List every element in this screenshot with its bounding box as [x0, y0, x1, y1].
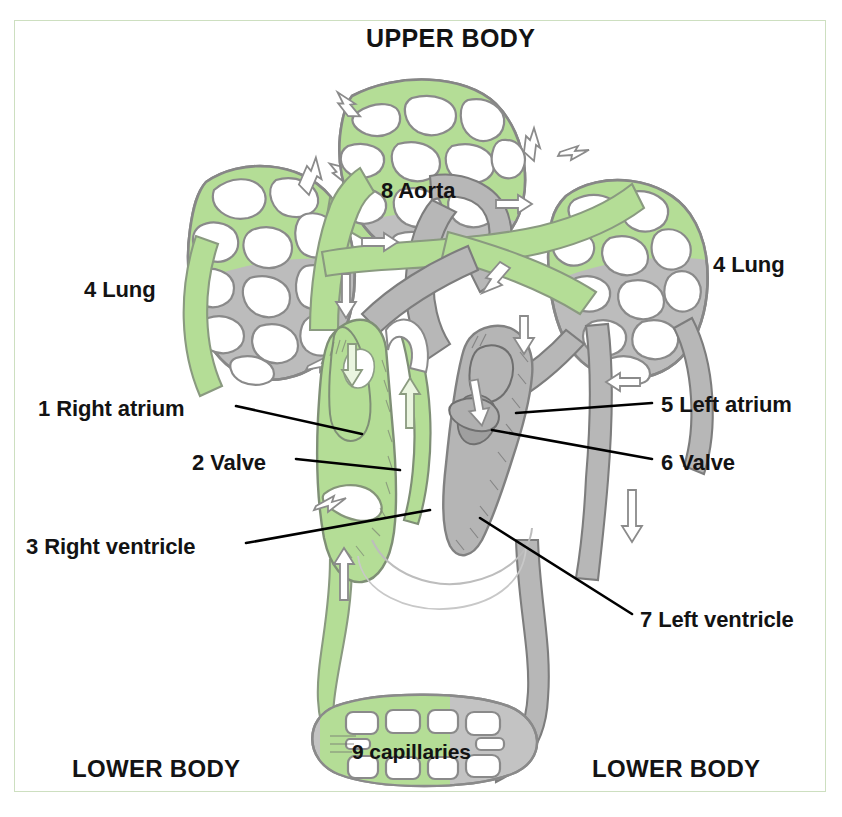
label-left-atrium: 5 Left atrium [661, 392, 792, 418]
circulatory-diagram-figure: .ox { fill: #b4dd96; stroke: #8a9a80; st… [0, 0, 842, 817]
label-valve-right: 2 Valve [192, 450, 266, 476]
label-right-ventricle: 3 Right ventricle [26, 534, 195, 560]
label-right-atrium: 1 Right atrium [38, 396, 185, 422]
label-valve-left: 6 Valve [661, 450, 735, 476]
label-lung-right: 4 Lung [713, 252, 785, 278]
heading-lower-body-left: LOWER BODY [72, 755, 240, 783]
label-left-ventricle: 7 Left ventricle [640, 607, 794, 633]
label-aorta: 8 Aorta [381, 178, 455, 204]
heading-upper-body: UPPER BODY [366, 24, 535, 53]
heading-lower-body-right: LOWER BODY [592, 755, 760, 783]
leader-left-atrium [516, 403, 652, 413]
label-lung-left: 4 Lung [84, 277, 156, 303]
heart [317, 320, 532, 583]
label-capillaries: 9 capillaries [352, 740, 471, 764]
leader-left-ventricle [480, 518, 632, 614]
